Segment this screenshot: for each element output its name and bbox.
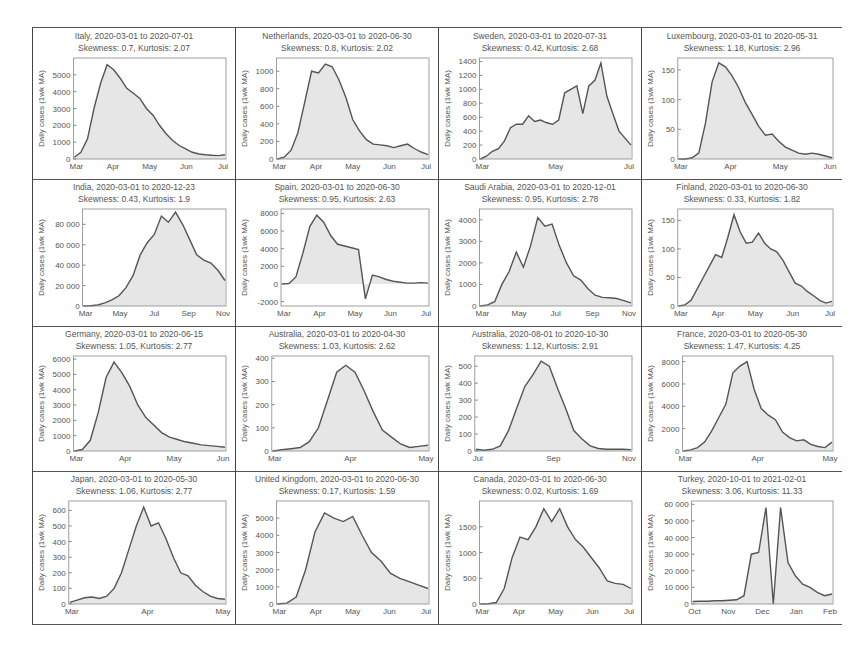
y-axis-label: Daily cases (1wk MA): [240, 365, 249, 442]
y-tick-label: 400: [458, 379, 472, 388]
y-tick-label: 60 000: [55, 241, 80, 250]
x-tick-label: Mar: [476, 607, 490, 616]
chart-panel: Australia, 2020-03-01 to 2020-04-30Skewn…: [235, 326, 438, 471]
y-tick-label: 5000: [53, 370, 71, 379]
area-fill: [476, 361, 631, 451]
x-tick-label: Jun: [180, 162, 193, 171]
area-fill: [74, 362, 225, 451]
y-tick-label: 4000: [260, 245, 278, 254]
x-tick-label: Mar: [70, 162, 84, 171]
x-tick-label: May: [215, 607, 230, 616]
x-tick-label: Jul: [473, 454, 483, 463]
y-axis-label: Daily cases (1wk MA): [443, 70, 452, 147]
plot: 050100150MarAprMayJunJulDaily cases (1wk…: [642, 179, 843, 326]
x-tick-label: Jan: [790, 607, 803, 616]
x-tick-label: Sep: [585, 309, 600, 318]
x-tick-label: Apr: [310, 607, 323, 616]
plot: 0100200300400MarAprMayDaily cases (1wk M…: [236, 326, 439, 471]
plot: 0100200300400500JulSepNovDaily cases (1w…: [439, 326, 642, 471]
x-tick-label: Jul: [149, 309, 159, 318]
x-tick-label: Jun: [217, 454, 230, 463]
x-tick-label: Mar: [268, 454, 282, 463]
x-tick-label: Mar: [273, 162, 287, 171]
y-tick-label: 100: [661, 245, 675, 254]
y-axis-label: Daily cases (1wk MA): [443, 514, 452, 591]
x-tick-label: Apr: [107, 162, 120, 171]
x-tick-label: Mar: [70, 454, 84, 463]
y-axis-label: Daily cases (1wk MA): [240, 514, 249, 591]
x-tick-label: Feb: [823, 607, 837, 616]
chart-panel: Sweden, 2020-03-01 to 2020-07-31Skewness…: [438, 28, 641, 179]
area-fill: [70, 507, 225, 604]
x-tick-label: May: [347, 309, 362, 318]
chart-panel: Saudi Arabia, 2020-03-01 to 2020-12-01Sk…: [438, 179, 641, 326]
x-tick-label: Jun: [586, 607, 599, 616]
y-tick-label: 8000: [662, 358, 680, 367]
x-tick-label: Apr: [141, 607, 154, 616]
x-tick-label: Mar: [674, 309, 688, 318]
y-tick-label: 6000: [53, 355, 71, 364]
x-tick-label: Jun: [384, 309, 397, 318]
x-tick-label: Apr: [313, 309, 326, 318]
area-fill: [679, 63, 832, 159]
y-tick-label: 40 000: [664, 534, 689, 543]
y-axis-label: Daily cases (1wk MA): [37, 514, 46, 591]
x-tick-label: Nov: [216, 309, 230, 318]
y-tick-label: 4000: [662, 402, 680, 411]
x-tick-label: Jun: [383, 607, 396, 616]
x-tick-label: Jul: [421, 309, 431, 318]
y-tick-label: 1400: [459, 57, 477, 66]
x-tick-label: Mar: [674, 162, 688, 171]
y-tick-label: 50: [666, 273, 675, 282]
y-tick-label: 400: [255, 354, 269, 363]
x-tick-label: Mar: [476, 162, 490, 171]
plot: 010 00020 00030 00040 00050 00060 000Oct…: [642, 471, 843, 624]
chart-panel: Turkey, 2020-10-01 to 2021-02-01Skewness…: [641, 471, 842, 624]
x-tick-label: Jul: [421, 162, 431, 171]
y-tick-label: 60 000: [664, 500, 689, 509]
plot: 0200400600800100012001400MarMayJulDaily …: [439, 28, 642, 179]
x-tick-label: May: [418, 454, 433, 463]
y-tick-label: 20 000: [664, 567, 689, 576]
y-tick-label: 1000: [459, 280, 477, 289]
y-tick-label: 200: [458, 413, 472, 422]
chart-panel: Australia, 2020-08-01 to 2020-10-30Skewn…: [438, 326, 641, 471]
y-tick-label: 30 000: [664, 550, 689, 559]
y-tick-label: 500: [458, 362, 472, 371]
plot: 02000400060008000MarAprMayDaily cases (1…: [642, 326, 843, 471]
x-tick-label: Mar: [273, 607, 287, 616]
y-tick-label: 400: [463, 127, 477, 136]
x-tick-label: Mar: [277, 309, 291, 318]
y-tick-label: 5000: [256, 514, 274, 523]
x-tick-label: Jun: [824, 162, 837, 171]
x-tick-label: Mar: [65, 607, 79, 616]
y-tick-label: 150: [661, 216, 675, 225]
y-tick-label: 4000: [256, 531, 274, 540]
chart-panel: Canada, 2020-03-01 to 2020-06-30Skewness…: [438, 471, 641, 624]
x-tick-label: Sep: [546, 454, 561, 463]
y-tick-label: 40 000: [55, 261, 80, 270]
chart-panel: Netherlands, 2020-03-01 to 2020-06-30Ske…: [235, 28, 438, 179]
plot: 050010001500MarAprMayJunJulDaily cases (…: [439, 471, 642, 624]
x-tick-label: Dec: [755, 607, 769, 616]
x-tick-label: May: [142, 162, 157, 171]
y-tick-label: 1000: [53, 138, 71, 147]
y-axis-label: Daily cases (1wk MA): [37, 70, 46, 147]
chart-panel: India, 2020-03-01 to 2020-12-23Skewness:…: [32, 179, 235, 326]
y-tick-label: 10 000: [664, 583, 689, 592]
y-tick-label: 6000: [662, 380, 680, 389]
y-tick-label: 300: [458, 396, 472, 405]
plot: 050100150MarAprMayJunDaily cases (1wk MA…: [642, 28, 843, 179]
y-tick-label: 2000: [260, 262, 278, 271]
y-tick-label: 80 000: [55, 220, 80, 229]
chart-panel: Finland, 2020-03-01 to 2020-06-30Skewnes…: [641, 179, 842, 326]
chart-panel: Luxembourg, 2020-03-01 to 2020-05-31Skew…: [641, 28, 842, 179]
plot: 010002000300040005000MarAprMayJunJulDail…: [33, 28, 236, 179]
y-tick-label: 300: [255, 377, 269, 386]
x-tick-label: Mar: [679, 454, 693, 463]
y-tick-label: 1000: [53, 432, 71, 441]
plot: 0100200300400500600MarAprMayDaily cases …: [33, 471, 236, 624]
y-tick-label: -2000: [258, 298, 279, 307]
y-tick-label: 4000: [459, 216, 477, 225]
x-tick-label: Apr: [344, 454, 357, 463]
